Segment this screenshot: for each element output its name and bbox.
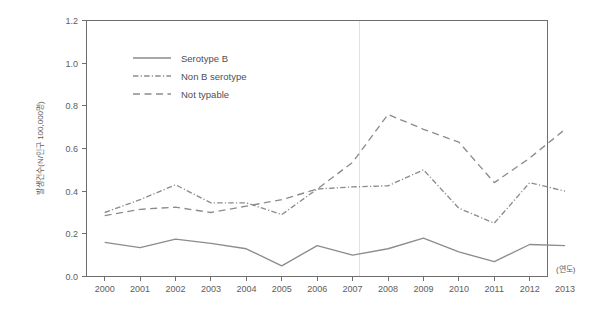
x-tick-label: 2004: [236, 284, 256, 294]
y-tick-label: 1.0: [65, 59, 78, 69]
x-axis-tick-labels: 2000 2001 2002 2003 2004 2005 2006 2007 …: [95, 284, 575, 294]
x-tick-label: 2003: [201, 284, 221, 294]
x-tick-label: 2007: [343, 284, 363, 294]
x-tick-label: 2002: [165, 284, 185, 294]
x-tick-label: 2001: [130, 284, 150, 294]
x-tick-label: 2010: [449, 284, 469, 294]
y-tick-label: 0.6: [65, 144, 78, 154]
x-tick-label: 2009: [413, 284, 433, 294]
x-tick-label: 2013: [555, 284, 575, 294]
legend-label-serotype-b: Serotype B: [181, 53, 228, 64]
x-tick-label: 2012: [520, 284, 540, 294]
series-group: [105, 114, 565, 265]
y-tick-label: 0.2: [65, 229, 78, 239]
y-tick-label: 1.2: [65, 16, 78, 26]
x-tick-label: 2006: [307, 284, 327, 294]
series-line-not-typable: [105, 114, 565, 215]
legend-label-not-typable: Not typable: [181, 89, 229, 100]
y-axis-ticks: [82, 21, 86, 277]
y-axis-title: 발생건수(N/인구 100,000명): [35, 101, 45, 195]
y-axis-tick-labels: 1.2 1.0 0.8 0.6 0.4 0.2 0.0: [65, 16, 78, 282]
legend-label-non-b-serotype: Non B serotype: [181, 71, 246, 82]
y-tick-label: 0.4: [65, 187, 78, 197]
x-tick-label: 2000: [95, 284, 115, 294]
series-line-non-b-serotype: [105, 170, 565, 223]
line-chart: 발생건수(N/인구 100,000명) 1.2 1.0 0.8 0.6 0.4 …: [0, 0, 604, 316]
y-tick-label: 0.8: [65, 101, 78, 111]
x-tick-label: 2008: [378, 284, 398, 294]
x-axis-title: (연도): [556, 265, 576, 274]
chart-figure: 발생건수(N/인구 100,000명) 1.2 1.0 0.8 0.6 0.4 …: [0, 0, 604, 316]
x-tick-label: 2011: [485, 284, 504, 294]
x-tick-label: 2005: [272, 284, 292, 294]
chart-legend: Serotype B Non B serotype Not typable: [133, 53, 246, 100]
y-tick-label: 0.0: [65, 272, 78, 282]
series-line-serotype-b: [105, 238, 565, 266]
